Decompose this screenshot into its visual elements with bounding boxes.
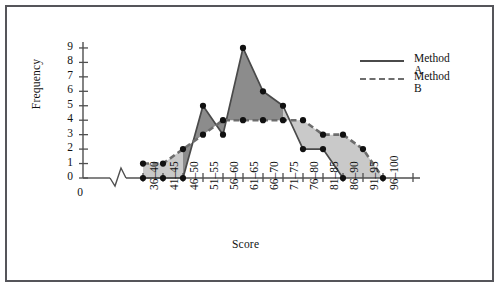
x-tick-label: 91–95 xyxy=(368,161,380,190)
x-tick-label: 46–50 xyxy=(188,161,200,190)
x-tick-label: 36–40 xyxy=(148,161,160,190)
y-tick-label: 4 xyxy=(59,112,73,124)
y-tick-label: 2 xyxy=(59,141,73,153)
legend-swatch-dashed-line-icon xyxy=(360,78,404,80)
x-tick-label: 96–100 xyxy=(388,156,400,191)
y-tick-label: 6 xyxy=(59,83,73,95)
y-tick-label: 3 xyxy=(59,127,73,139)
y-tick-label: 5 xyxy=(59,98,73,110)
y-tick-label: 7 xyxy=(59,69,73,81)
x-axis-title: Score xyxy=(232,238,259,250)
legend-label-method-b: Method B xyxy=(414,70,450,94)
x-tick-label: 51–55 xyxy=(208,161,220,190)
y-axis-title: Frequency xyxy=(30,44,42,124)
y-tick-label: 8 xyxy=(59,54,73,66)
x-tick-label: 66–70 xyxy=(268,161,280,190)
x-tick-label: 71–75 xyxy=(288,161,300,190)
x-tick-label: 61–65 xyxy=(248,161,260,190)
x-tick-label: 76–80 xyxy=(308,161,320,190)
x-tick-label: 41–45 xyxy=(168,161,180,190)
x-tick-label: 56–60 xyxy=(228,161,240,190)
x-tick-label: 81–85 xyxy=(328,161,340,190)
legend-swatch-solid-line-icon xyxy=(360,60,404,62)
y-tick-label: 0 xyxy=(59,170,73,182)
y-tick-label: 1 xyxy=(59,156,73,168)
origin-label: 0 xyxy=(69,186,83,198)
y-tick-label: 9 xyxy=(59,40,73,52)
x-tick-label: 86–90 xyxy=(348,161,360,190)
series-fill-areas xyxy=(143,48,383,178)
